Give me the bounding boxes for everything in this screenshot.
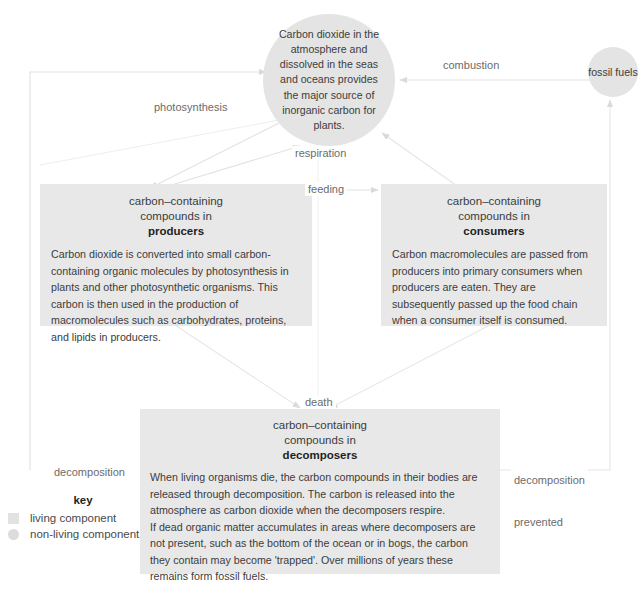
consumers-heading-line2: compounds in xyxy=(392,209,596,224)
key-title: key xyxy=(0,494,180,506)
consumers-heading-line1: carbon–containing xyxy=(392,194,596,209)
living-component-swatch-icon xyxy=(8,513,19,524)
key-item-living-label: living component xyxy=(30,512,116,524)
label-respiration: respiration xyxy=(292,146,349,160)
decomposers-heading-line2: compounds in xyxy=(150,433,490,448)
arrow-consumer-respiration xyxy=(382,133,460,188)
decomposers-body-para2: If dead organic matter accumulates in ar… xyxy=(150,519,490,585)
label-combustion: combustion xyxy=(440,58,502,72)
producers-heading: carbon–containing compounds in producers xyxy=(51,194,301,239)
producers-box: carbon–containing compounds in producers… xyxy=(40,184,312,326)
carbon-cycle-diagram: Carbon dioxide in the atmosphere and dis… xyxy=(0,0,638,595)
label-decomposition: decomposition xyxy=(51,465,128,479)
decomposers-body-para1: When living organisms die, the carbon co… xyxy=(150,469,490,519)
key-item-non-living: non-living component xyxy=(8,528,180,540)
arrow-photosynthesis-feed xyxy=(40,118,290,165)
key-item-living: living component xyxy=(8,512,180,524)
producers-heading-line2: compounds in xyxy=(51,209,301,224)
decomposers-heading: carbon–containing compounds in decompose… xyxy=(150,418,490,463)
label-death: death xyxy=(302,395,336,409)
label-photosynthesis: photosynthesis xyxy=(151,100,230,114)
consumers-heading: carbon–containing compounds in consumers xyxy=(392,194,596,239)
producers-body: Carbon dioxide is converted into small c… xyxy=(51,246,301,345)
label-decomposition-prevented-line2: prevented xyxy=(514,515,585,529)
label-decomposition-prevented: decomposition prevented xyxy=(511,445,588,557)
decomposers-heading-strong: decomposers xyxy=(150,448,490,463)
producers-heading-strong: producers xyxy=(51,224,301,239)
decomposers-box: carbon–containing compounds in decompose… xyxy=(140,409,500,574)
key-item-non-living-label: non-living component xyxy=(30,528,139,540)
consumers-box: carbon–containing compounds in consumers… xyxy=(381,184,607,326)
fossil-fuels-text: fossil fuels xyxy=(588,65,637,79)
atmosphere-circle: Carbon dioxide in the atmosphere and dis… xyxy=(263,14,395,146)
fossil-fuels-circle: fossil fuels xyxy=(588,47,638,97)
consumers-body: Carbon macromolecules are passed from pr… xyxy=(392,246,596,329)
label-decomposition-prevented-line1: decomposition xyxy=(514,473,585,487)
producers-heading-line1: carbon–containing xyxy=(51,194,301,209)
non-living-component-swatch-icon xyxy=(8,529,19,540)
decomposers-heading-line1: carbon–containing xyxy=(150,418,490,433)
arrow-death-consumers xyxy=(330,325,490,408)
consumers-heading-strong: consumers xyxy=(392,224,596,239)
key: key living component non-living componen… xyxy=(8,494,180,544)
atmosphere-text: Carbon dioxide in the atmosphere and dis… xyxy=(263,27,395,133)
label-feeding: feeding xyxy=(305,182,347,196)
